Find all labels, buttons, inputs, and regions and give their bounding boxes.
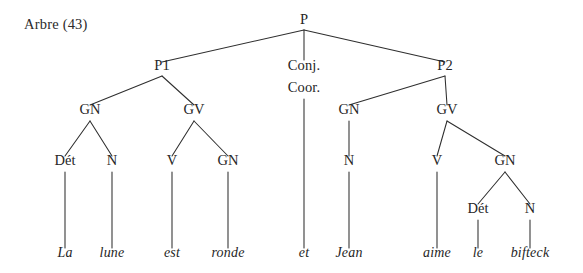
tree-leaf-w8: le: [473, 245, 484, 260]
tree-branch-gn1-n1: [90, 121, 112, 156]
tree-leaf-w1: La: [56, 245, 72, 260]
tree-leaf-w7: aime: [423, 245, 451, 260]
tree-leaf-w4: ronde: [211, 245, 244, 260]
tree-branch-p-p2: [304, 30, 445, 62]
figure-label: Arbre (43): [24, 16, 88, 33]
syntax-tree-figure: PP1Conj.Coor.P2GNGVGNGVDétNVGNNVGNDétN L…: [0, 0, 583, 273]
tree-leaf-w6: Jean: [335, 245, 362, 260]
tree-node-det2: Dét: [467, 200, 488, 216]
tree-node-gn3: GN: [338, 101, 360, 117]
tree-node-n1: N: [107, 152, 118, 168]
tree-node-p2: P2: [437, 57, 453, 73]
tree-node-p: P: [300, 11, 308, 27]
tree-node-det1: Dét: [54, 152, 75, 168]
tree-nodes: PP1Conj.Coor.P2GNGVGNGVDétNVGNNVGNDétN: [54, 11, 535, 216]
tree-leaf-w3: est: [164, 245, 181, 260]
tree-node-gn4: GN: [494, 152, 516, 168]
tree-branch-gv1-v1: [172, 121, 194, 156]
tree-node-conj: Conj.: [288, 57, 320, 73]
tree-branch-gv1-gn2: [194, 121, 228, 156]
tree-branch-gv2-v2: [437, 121, 447, 156]
tree-node-v1: V: [167, 152, 178, 168]
tree-node-n3: N: [525, 200, 536, 216]
tree-branch-gn1-det1: [65, 121, 90, 156]
tree-branch-p1-gn1: [90, 76, 162, 105]
tree-leaf-w2: lune: [100, 245, 125, 260]
tree-node-v2: V: [432, 152, 443, 168]
tree-leaves: LaluneestrondeetJeanaimelebifteck: [56, 245, 550, 260]
tree-node-gn2: GN: [217, 152, 239, 168]
tree-leaf-w5: et: [299, 245, 310, 260]
tree-branch-gv2-gn4: [447, 121, 505, 156]
tree-leaf-w9: bifteck: [511, 245, 550, 260]
tree-node-p1: P1: [154, 57, 170, 73]
tree-branch-p2-gn3: [349, 76, 445, 105]
tree-node-gv1: GV: [183, 101, 205, 117]
tree-node-n2: N: [344, 152, 355, 168]
tree-node-coor: Coor.: [288, 79, 320, 95]
tree-node-gn1: GN: [79, 101, 101, 117]
tree-node-gv2: GV: [436, 101, 458, 117]
tree-branch-p-p1: [162, 30, 304, 62]
